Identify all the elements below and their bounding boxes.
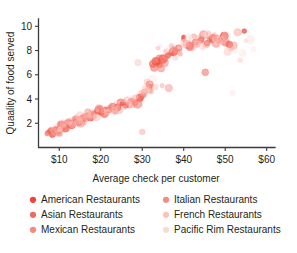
data-point xyxy=(153,84,159,90)
data-point xyxy=(194,41,202,49)
data-point xyxy=(126,100,131,105)
data-point xyxy=(234,29,242,37)
data-point xyxy=(133,94,138,99)
data-point xyxy=(45,132,49,136)
data-point xyxy=(238,58,243,63)
data-point xyxy=(93,114,99,120)
data-point xyxy=(239,49,246,56)
data-points-layer xyxy=(45,29,256,138)
data-point xyxy=(212,37,218,43)
x-axis-ticks: $10$20$30$40$50$60 xyxy=(51,148,276,165)
data-point xyxy=(222,32,231,41)
data-point xyxy=(110,107,118,115)
data-point xyxy=(75,119,84,128)
legend-marker-icon xyxy=(30,197,36,203)
data-point xyxy=(160,84,164,88)
x-tick-label: $30 xyxy=(134,154,151,165)
legend-marker-icon xyxy=(30,212,36,218)
data-point xyxy=(66,117,73,124)
data-point xyxy=(164,54,170,60)
data-point xyxy=(168,87,172,91)
legend-label: Italian Restaurants xyxy=(174,194,257,205)
data-point xyxy=(58,127,63,132)
y-tick-label: 8 xyxy=(26,45,32,56)
legend-marker-icon xyxy=(163,197,169,203)
x-tick-label: $50 xyxy=(217,154,234,165)
y-axis-ticks: 246810 xyxy=(21,21,39,129)
data-point xyxy=(142,87,150,95)
x-tick-label: $10 xyxy=(51,154,68,165)
data-point xyxy=(50,133,54,137)
data-point xyxy=(202,69,209,76)
legend-item[interactable]: Asian Restaurants xyxy=(30,209,123,220)
data-point xyxy=(135,59,141,65)
data-point xyxy=(148,75,156,83)
data-point xyxy=(84,111,92,119)
x-tick-label: $60 xyxy=(258,154,275,165)
data-point xyxy=(139,129,145,135)
data-point xyxy=(232,48,237,53)
legend-marker-icon xyxy=(163,212,169,218)
y-tick-label: 10 xyxy=(21,21,33,32)
legend-item[interactable]: French Restaurants xyxy=(163,209,262,220)
scatter-chart: 246810 $10$20$30$40$50$60 Average check … xyxy=(0,0,297,253)
y-tick-label: 4 xyxy=(26,94,32,105)
data-point xyxy=(177,45,181,49)
data-point xyxy=(123,105,128,110)
legend-label: Asian Restaurants xyxy=(41,209,123,220)
y-axis-title: Quaality of food served xyxy=(5,32,16,135)
data-point xyxy=(113,101,119,107)
data-point xyxy=(95,108,99,112)
legend-marker-icon xyxy=(163,227,169,233)
legend-label: American Restaurants xyxy=(41,194,140,205)
x-tick-label: $40 xyxy=(175,154,192,165)
data-point xyxy=(251,46,257,52)
data-point xyxy=(242,29,247,34)
legend-item[interactable]: Pacific Rim Restaurants xyxy=(163,224,281,235)
y-tick-label: 6 xyxy=(26,69,32,80)
legend-marker-icon xyxy=(30,227,36,233)
data-point xyxy=(104,106,110,112)
data-point xyxy=(204,30,211,37)
data-point xyxy=(185,34,191,40)
x-axis-title: Average check per customer xyxy=(92,173,220,184)
data-point xyxy=(224,48,232,56)
x-tick-label: $20 xyxy=(92,154,109,165)
data-point xyxy=(166,46,172,52)
y-tick-label: 2 xyxy=(26,118,32,129)
plot-surface: 246810 $10$20$30$40$50$60 Average check … xyxy=(0,0,297,253)
data-point xyxy=(152,57,158,63)
legend-label: Mexican Restaurants xyxy=(41,224,135,235)
data-point xyxy=(158,65,165,72)
legend-item[interactable]: American Restaurants xyxy=(30,194,140,205)
data-point xyxy=(246,35,255,44)
data-point xyxy=(150,64,158,72)
legend-item[interactable]: Italian Restaurants xyxy=(163,194,257,205)
legend-label: French Restaurants xyxy=(174,209,262,220)
data-point xyxy=(159,44,163,48)
legend-label: Pacific Rim Restaurants xyxy=(174,224,281,235)
data-point xyxy=(230,90,235,95)
data-point xyxy=(173,55,178,60)
legend-item[interactable]: Mexican Restaurants xyxy=(30,224,135,235)
legend: American RestaurantsAsian RestaurantsMex… xyxy=(30,194,281,235)
